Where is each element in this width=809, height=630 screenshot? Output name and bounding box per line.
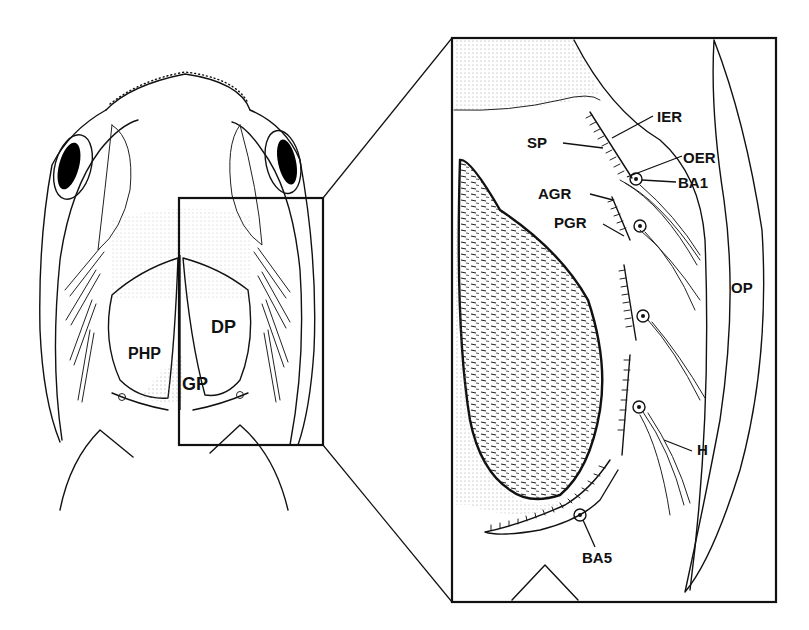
gill-arch-4: [618, 355, 690, 515]
connector-top: [323, 38, 452, 198]
label-ier: IER: [657, 108, 682, 125]
label-php: PHP: [128, 345, 161, 362]
label-ba1: BA1: [678, 174, 708, 191]
label-gp: GP: [182, 374, 208, 394]
label-agr: AGR: [538, 185, 572, 202]
label-oer: OER: [683, 149, 716, 166]
left-eye-icon: [47, 130, 99, 203]
label-pgr: PGR: [554, 214, 587, 231]
label-h: H: [697, 441, 708, 458]
right-eye-icon: [260, 127, 307, 197]
gill-arch-3: [619, 265, 705, 400]
pharyngeal-pad-enlarged: [459, 160, 603, 499]
overview-head: PHP DP GP: [40, 72, 323, 510]
gill-arch-2: [608, 197, 700, 310]
label-ba5: BA5: [582, 549, 612, 566]
label-sp: SP: [527, 134, 547, 151]
fish-head-diagram: PHP DP GP: [0, 0, 809, 630]
inset-enlargement: IER SP OER BA1 AGR PGR OP H BA5: [452, 38, 776, 602]
label-op: OP: [731, 279, 753, 296]
operculum: [685, 40, 764, 592]
label-dp: DP: [211, 317, 236, 337]
connector-bottom: [323, 445, 452, 602]
